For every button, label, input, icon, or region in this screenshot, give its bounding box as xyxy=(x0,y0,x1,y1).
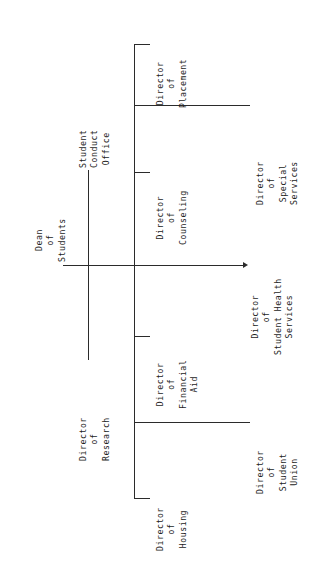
special-services-line-3: Special xyxy=(278,161,289,205)
financial-aid-line-2: of xyxy=(166,360,177,409)
student-health-line-3: Student Health xyxy=(273,278,284,355)
dean-line-2: of xyxy=(45,218,56,262)
financial-aid-line-4: Aid xyxy=(189,360,200,409)
branch-line-placement xyxy=(134,44,150,45)
branch-line-housing xyxy=(134,498,150,499)
director-of-student-health-services-node[interactable]: Director of Student Health Services xyxy=(250,278,296,355)
research-line-2: of xyxy=(89,417,100,461)
research-line-3: Research xyxy=(101,417,112,461)
special-services-line-1: Director xyxy=(255,161,266,205)
conduct-office-line-3: Office xyxy=(101,130,112,168)
housing-line-3: Housing xyxy=(178,507,189,551)
dean-axis-arrowhead xyxy=(243,262,248,268)
org-chart-canvas: Dean of Students Student Conduct Office … xyxy=(0,0,322,561)
counseling-line-3: Counseling xyxy=(178,190,189,245)
placement-line-2: of xyxy=(166,59,177,108)
student-health-line-1: Director xyxy=(250,278,261,355)
counseling-line-2: of xyxy=(166,190,177,245)
student-union-line-1: Director xyxy=(255,450,266,494)
branch-line-student-union xyxy=(134,422,250,423)
housing-line-2: of xyxy=(166,507,177,551)
placement-line-1: Director xyxy=(155,59,166,108)
director-of-counseling-node[interactable]: Director of Counseling xyxy=(155,190,189,245)
director-of-housing-node[interactable]: Director of Housing xyxy=(155,507,189,551)
special-services-line-2: of xyxy=(266,161,277,205)
financial-aid-line-3: Financial xyxy=(178,360,189,409)
main-trunk-line xyxy=(134,44,135,499)
financial-aid-line-1: Director xyxy=(155,360,166,409)
director-of-research-node[interactable]: Director of Research xyxy=(78,417,112,461)
dean-line-3: Students xyxy=(57,218,68,262)
director-of-special-services-node[interactable]: Director of Special Services xyxy=(255,161,301,205)
branch-line-special-services xyxy=(134,105,250,106)
branch-line-financial-aid xyxy=(134,336,150,337)
housing-line-1: Director xyxy=(155,507,166,551)
conduct-office-line-1: Student xyxy=(78,130,89,168)
student-conduct-office-node[interactable]: Student Conduct Office xyxy=(78,130,112,168)
counseling-line-1: Director xyxy=(155,190,166,245)
student-union-line-4: Union xyxy=(289,450,300,494)
director-of-financial-aid-node[interactable]: Director of Financial Aid xyxy=(155,360,201,409)
student-health-line-2: of xyxy=(261,278,272,355)
student-union-line-2: of xyxy=(266,450,277,494)
dean-line-1: Dean xyxy=(34,218,45,262)
dean-of-students-node[interactable]: Dean of Students xyxy=(34,218,68,262)
director-of-student-union-node[interactable]: Director of Student Union xyxy=(255,450,301,494)
placement-line-3: Placement xyxy=(178,59,189,108)
conduct-office-line-2: Conduct xyxy=(89,130,100,168)
research-line-1: Director xyxy=(78,417,89,461)
dean-main-axis-line xyxy=(63,265,245,266)
branch-line-counseling xyxy=(134,172,150,173)
student-health-line-4: Services xyxy=(284,278,295,355)
director-of-placement-node[interactable]: Director of Placement xyxy=(155,59,189,108)
student-union-line-3: Student xyxy=(278,450,289,494)
special-services-line-4: Services xyxy=(289,161,300,205)
